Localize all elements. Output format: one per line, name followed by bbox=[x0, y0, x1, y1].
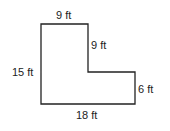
left-dimension-label: 15 ft bbox=[12, 67, 33, 78]
top-dimension-label: 9 ft bbox=[56, 10, 71, 21]
bottom-dimension-label: 18 ft bbox=[76, 110, 97, 121]
l-shape-outline bbox=[41, 24, 135, 104]
inner-vertical-dimension-label: 9 ft bbox=[91, 40, 106, 51]
right-dimension-label: 6 ft bbox=[138, 84, 153, 95]
